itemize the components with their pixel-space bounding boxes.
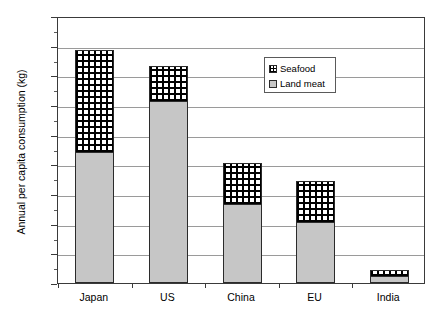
x-category-label: EU bbox=[307, 291, 322, 303]
x-category-label: US bbox=[160, 291, 175, 303]
bar-group bbox=[370, 16, 409, 283]
bar-segment-seafood bbox=[75, 50, 114, 153]
stacked-bar-chart: Annual per capita consumption (kg) 02040… bbox=[0, 0, 444, 317]
legend-entry-seafood: Seafood bbox=[269, 61, 332, 76]
bar-segment-land-meat bbox=[296, 222, 335, 283]
bar-segment-seafood bbox=[149, 66, 188, 101]
x-tick-mark bbox=[279, 283, 280, 288]
bar-segment-land-meat bbox=[370, 276, 409, 283]
x-category-label: China bbox=[227, 291, 254, 303]
bar-group bbox=[75, 16, 114, 283]
bar-segment-land-meat bbox=[223, 204, 262, 283]
x-tick-mark bbox=[132, 283, 133, 288]
x-category-label: Japan bbox=[79, 291, 108, 303]
bar-segment-seafood bbox=[370, 270, 409, 277]
bar-group bbox=[223, 16, 262, 283]
bar-segment-seafood bbox=[223, 163, 262, 206]
plot-area bbox=[57, 17, 425, 284]
x-tick-mark bbox=[352, 283, 353, 288]
bar-segment-land-meat bbox=[75, 152, 114, 283]
x-category-label: India bbox=[377, 291, 400, 303]
legend-label-land-meat: Land meat bbox=[280, 78, 325, 89]
legend: Seafood Land meat bbox=[264, 57, 336, 93]
x-tick-mark bbox=[58, 283, 59, 288]
legend-label-seafood: Seafood bbox=[280, 63, 315, 74]
legend-entry-land-meat: Land meat bbox=[269, 76, 332, 91]
bar-segment-seafood bbox=[296, 181, 335, 224]
y-axis-title: Annual per capita consumption (kg) bbox=[15, 27, 27, 277]
land-meat-swatch-icon bbox=[269, 80, 277, 88]
bar-group bbox=[149, 16, 188, 283]
y-tick-mark bbox=[51, 284, 57, 285]
seafood-swatch-icon bbox=[269, 65, 277, 73]
bar-segment-land-meat bbox=[149, 101, 188, 283]
x-tick-mark bbox=[205, 283, 206, 288]
